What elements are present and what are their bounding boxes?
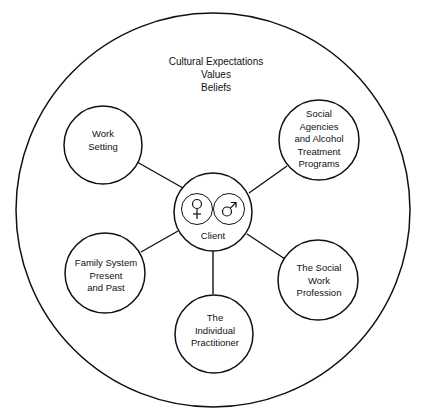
node-line: Work	[297, 275, 342, 288]
context-line: Cultural Expectations	[169, 55, 264, 68]
node-line: Treatment	[294, 145, 343, 158]
context-label: Cultural Expectations Values Beliefs	[169, 55, 264, 94]
edge-client-social-work-profession	[247, 234, 285, 259]
edge-client-family-system	[141, 231, 178, 252]
node-line: The Social	[297, 262, 342, 275]
node-social-agencies: Social Agencies and Alcohol Treatment Pr…	[294, 108, 343, 171]
node-line: and Alcohol	[294, 133, 343, 146]
node-social-work-profession: The Social Work Profession	[297, 262, 342, 300]
client-label: Client	[201, 230, 225, 243]
node-line: Work	[88, 128, 118, 141]
node-work-setting: Work Setting	[88, 128, 118, 153]
node-line: Programs	[294, 158, 343, 171]
node-line: The	[191, 312, 239, 325]
edge-client-work-setting	[137, 162, 183, 188]
node-family-system: Family System Present and Past	[75, 257, 137, 295]
node-line: Family System	[75, 257, 137, 270]
node-line: Agencies	[294, 120, 343, 133]
context-line: Beliefs	[169, 81, 264, 94]
node-line: Practitioner	[191, 337, 239, 350]
node-line: Setting	[88, 141, 118, 154]
node-individual-practitioner: The Individual Practitioner	[191, 312, 239, 350]
male-symbol-circle	[214, 194, 245, 225]
edge-client-social-agencies	[249, 166, 287, 193]
node-line: Profession	[297, 287, 342, 300]
node-line: Social	[294, 108, 343, 121]
node-line: Present	[75, 270, 137, 283]
context-line: Values	[169, 68, 264, 81]
node-line: and Past	[75, 282, 137, 295]
node-line: Individual	[191, 325, 239, 338]
